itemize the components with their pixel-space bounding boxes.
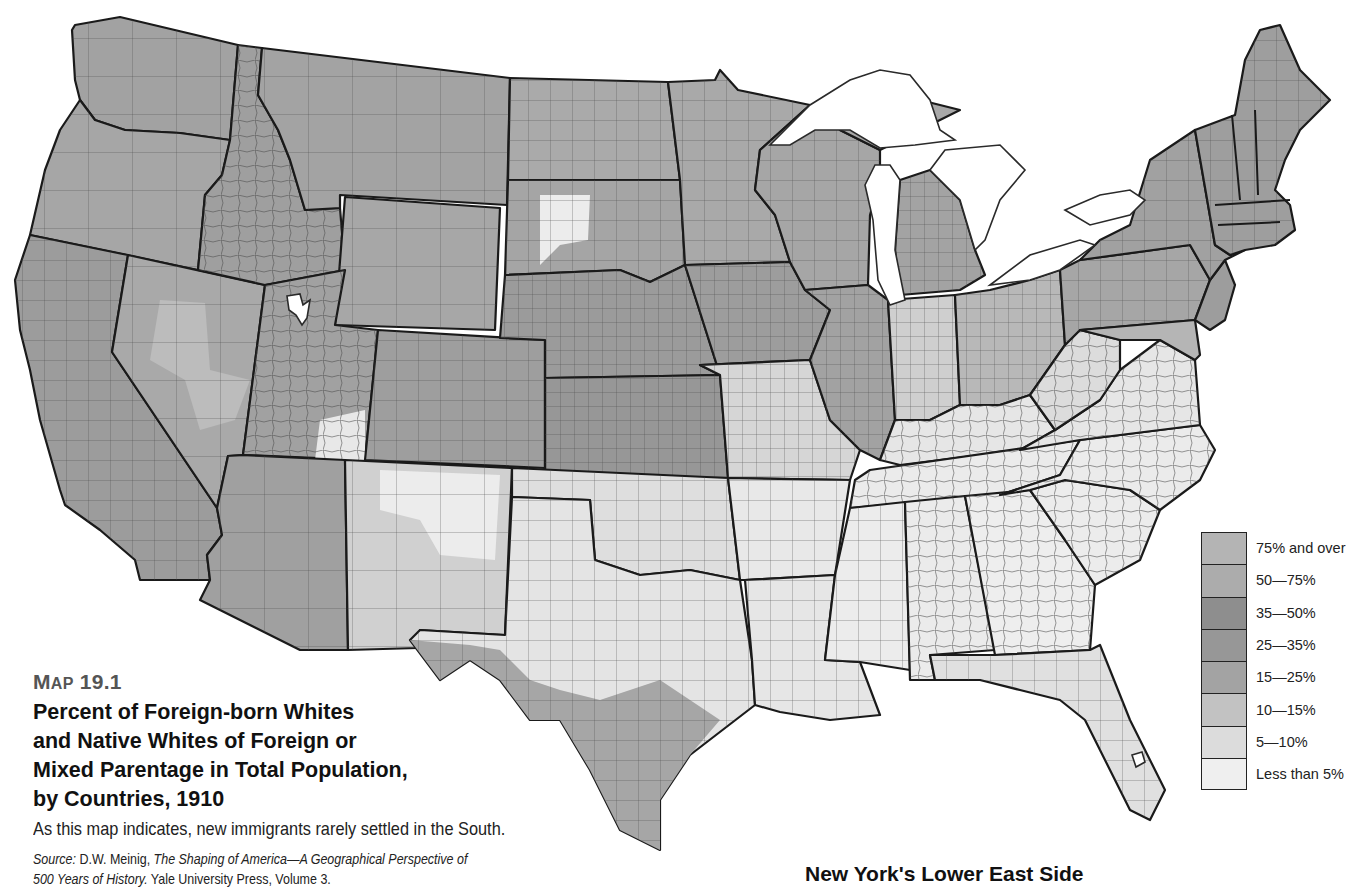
legend-label: 15—25% [1256, 669, 1316, 685]
state-north-dakota [508, 78, 680, 180]
state-new-england [1195, 25, 1330, 255]
legend-item: 50—75% [1201, 564, 1345, 596]
state-arkansas [728, 478, 850, 580]
legend-label: 75% and over [1256, 540, 1345, 556]
legend-label: 35—50% [1256, 605, 1316, 621]
legend-swatch [1201, 758, 1247, 790]
state-colorado [365, 330, 545, 468]
map-number: MAP 19.1 [33, 670, 593, 694]
source-label: Source: [33, 851, 76, 867]
state-kansas [545, 375, 728, 480]
map-title: Percent of Foreign-born Whites and Nativ… [33, 698, 593, 814]
state-new-mexico [345, 460, 512, 650]
legend-swatch [1201, 564, 1247, 596]
legend-item: 5—10% [1201, 726, 1345, 758]
legend-label: 10—15% [1256, 702, 1316, 718]
legend-item: 35—50% [1201, 597, 1345, 629]
map-title-line: Percent of Foreign-born Whites [33, 698, 593, 727]
legend-item: Less than 5% [1201, 758, 1345, 790]
map-legend: 75% and over 50—75% 35—50% 25—35% 15—25%… [1201, 532, 1345, 790]
legend-item: 10—15% [1201, 693, 1345, 725]
legend-label: 50—75% [1256, 572, 1316, 588]
legend-swatch [1201, 597, 1247, 629]
map-title-line: and Native Whites of Foreign or [33, 727, 593, 756]
legend-swatch [1201, 629, 1247, 661]
map-caption: MAP 19.1 Percent of Foreign-born Whites … [33, 670, 593, 889]
source-book-title-cont: 500 Years of History. [33, 871, 148, 887]
legend-swatch [1201, 693, 1247, 725]
legend-swatch [1201, 532, 1247, 564]
legend-item: 15—25% [1201, 661, 1345, 693]
map-title-line: by Countries, 1910 [33, 785, 593, 814]
map-number-prefix: M [33, 670, 51, 693]
map-description: As this map indicates, new immigrants ra… [33, 818, 515, 840]
state-indiana [888, 295, 960, 420]
source-book-title: The Shaping of America—A Geographical Pe… [154, 851, 468, 867]
legend-swatch [1201, 661, 1247, 693]
map-number-value: 19.1 [80, 670, 122, 693]
map-source: Source: D.W. Meinig, The Shaping of Amer… [33, 849, 515, 889]
source-publisher: Yale University Press, Volume 3. [148, 871, 331, 887]
legend-label: 5—10% [1256, 734, 1308, 750]
map-title-line: Mixed Parentage in Total Population, [33, 756, 593, 785]
legend-item: 25—35% [1201, 629, 1345, 661]
legend-item: 75% and over [1201, 532, 1345, 564]
legend-swatch [1201, 726, 1247, 758]
section-heading: New York's Lower East Side [805, 862, 1084, 886]
state-wyoming [335, 197, 500, 330]
legend-label: Less than 5% [1256, 766, 1344, 782]
state-arizona [200, 455, 348, 650]
source-author: D.W. Meinig, [76, 851, 154, 867]
legend-label: 25—35% [1256, 637, 1316, 653]
state-florida [930, 645, 1165, 820]
state-south-dakota [505, 180, 685, 282]
map-number-prefix-small: AP [51, 675, 74, 692]
